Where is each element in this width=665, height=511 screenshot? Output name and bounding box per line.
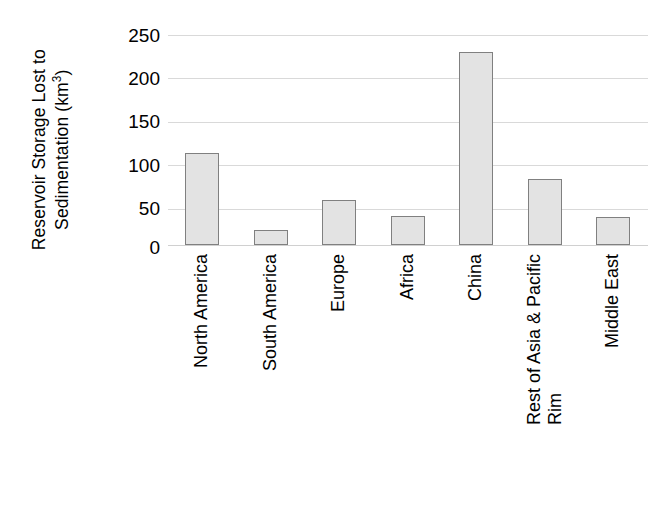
y-tick-200: 200 xyxy=(104,69,160,88)
bar-series xyxy=(168,26,648,246)
plot-area xyxy=(168,26,648,246)
y-axis-title-line-2-text: Sedimentation (km xyxy=(51,83,71,231)
bar-slot-africa xyxy=(374,26,443,245)
y-tick-150: 150 xyxy=(104,112,160,131)
y-tick-0: 0 xyxy=(104,238,160,257)
x-label-europe: Europe xyxy=(329,254,350,312)
y-tick-100: 100 xyxy=(104,156,160,175)
x-label-china: China xyxy=(466,254,487,301)
x-label-middle-east-line-1: Middle East xyxy=(603,254,624,348)
x-label-europe-line-1: Europe xyxy=(329,254,350,312)
x-label-north-america: North America xyxy=(192,254,213,368)
y-axis-title: Reservoir Storage Lost to Sedimentation … xyxy=(0,0,100,300)
bar-slot-middle-east xyxy=(579,26,648,245)
x-label-slot-middle-east: Middle East xyxy=(579,250,648,500)
x-label-rest-of-asia-pacific-rim-line-1: Rest of Asia & Pacific xyxy=(524,254,545,425)
x-label-rest-of-asia-pacific-rim: Rest of Asia & Pacific Rim xyxy=(524,254,566,425)
x-label-slot-rest-of-asia-pacific-rim: Rest of Asia & Pacific Rim xyxy=(511,250,580,500)
x-label-africa-line-1: Africa xyxy=(397,254,418,300)
bar-middle-east[interactable] xyxy=(596,217,630,245)
x-label-rest-of-asia-pacific-rim-line-2: Rim xyxy=(545,254,566,425)
y-tick-50: 50 xyxy=(104,199,160,218)
bar-north-america[interactable] xyxy=(185,153,219,245)
bar-europe[interactable] xyxy=(322,200,356,245)
x-label-south-america: South America xyxy=(260,254,281,371)
y-axis-title-text: Reservoir Storage Lost to Sedimentation … xyxy=(27,50,73,251)
bar-chart: Reservoir Storage Lost to Sedimentation … xyxy=(0,0,665,511)
x-label-slot-south-america: South America xyxy=(237,250,306,500)
bar-africa[interactable] xyxy=(391,216,425,245)
bar-slot-europe xyxy=(305,26,374,245)
x-label-slot-europe: Europe xyxy=(305,250,374,500)
x-label-africa: Africa xyxy=(397,254,418,300)
bar-china[interactable] xyxy=(459,52,493,245)
x-label-slot-china: China xyxy=(442,250,511,500)
x-label-middle-east: Middle East xyxy=(603,254,624,348)
y-tick-250: 250 xyxy=(104,26,160,45)
bar-slot-south-america xyxy=(237,26,306,245)
x-label-north-america-line-1: North America xyxy=(192,254,213,368)
y-axis-title-line-2: Sedimentation (km3) xyxy=(50,50,73,251)
x-label-china-line-1: China xyxy=(466,254,487,301)
y-axis-tick-labels: 250 200 150 100 50 0 xyxy=(104,26,160,246)
x-axis-category-labels: North America South America Europe Afric… xyxy=(168,250,648,500)
bar-rest-of-asia-pacific-rim[interactable] xyxy=(528,179,562,245)
bar-slot-china xyxy=(442,26,511,245)
x-label-south-america-line-1: South America xyxy=(260,254,281,371)
x-label-slot-north-america: North America xyxy=(168,250,237,500)
x-label-slot-africa: Africa xyxy=(374,250,443,500)
bar-slot-north-america xyxy=(168,26,237,245)
bar-slot-rest-of-asia-pacific-rim xyxy=(511,26,580,245)
y-axis-unit-exponent: 3 xyxy=(49,76,63,83)
y-axis-title-line-1: Reservoir Storage Lost to xyxy=(27,50,50,251)
y-axis-unit-close: ) xyxy=(51,70,71,76)
bar-south-america[interactable] xyxy=(254,230,288,245)
